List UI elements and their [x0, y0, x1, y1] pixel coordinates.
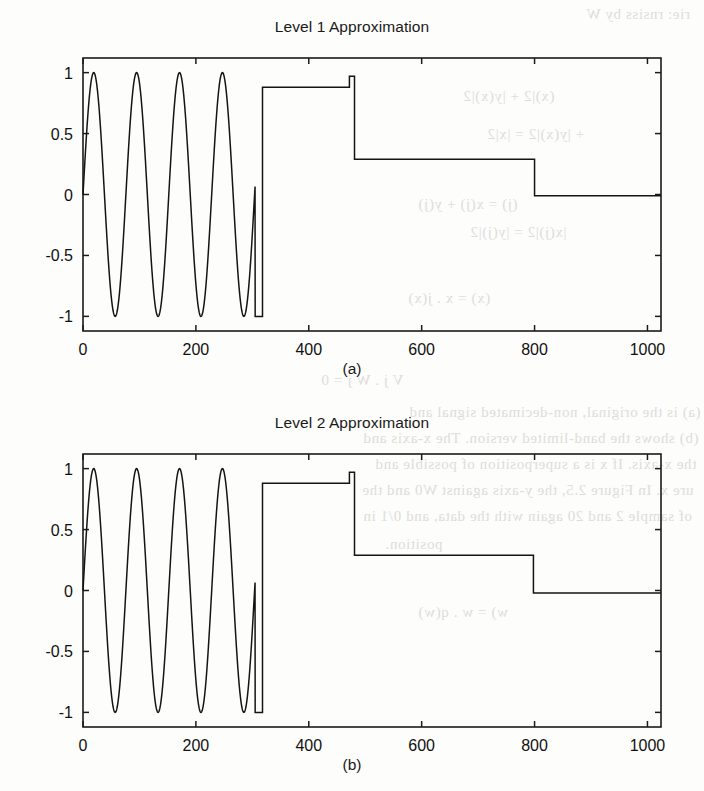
y-tick-label: -1 — [59, 308, 73, 325]
scanned-page: rie: rnsiss by W (x)|2 + |y(x)|2 + |y(x)… — [0, 0, 704, 791]
x-tick-label: 400 — [295, 341, 322, 358]
x-tick-label: 0 — [79, 341, 88, 358]
y-tick-label: -0.5 — [45, 643, 73, 660]
plot-canvas: 02004006008001000-1-0.500.51 — [0, 0, 704, 360]
y-tick-label: 0.5 — [51, 522, 73, 539]
chart-caption: (a) — [0, 360, 704, 378]
x-tick-label: 0 — [79, 737, 88, 754]
chart-level-1-approximation: Level 1 Approximation 02004006008001000-… — [0, 0, 704, 396]
y-tick-label: 1 — [64, 65, 73, 82]
x-tick-label: 1000 — [630, 341, 666, 358]
chart-level-2-approximation: Level 2 Approximation 02004006008001000-… — [0, 396, 704, 791]
x-tick-label: 800 — [521, 341, 548, 358]
x-tick-label: 800 — [521, 737, 548, 754]
data-series-line — [83, 73, 661, 317]
x-tick-label: 400 — [295, 737, 322, 754]
x-tick-label: 600 — [408, 341, 435, 358]
y-tick-label: -0.5 — [45, 247, 73, 264]
y-tick-label: 0 — [64, 583, 73, 600]
data-series-line — [83, 469, 661, 713]
y-tick-label: -1 — [59, 704, 73, 721]
y-tick-label: 0 — [64, 187, 73, 204]
chart-caption: (b) — [0, 756, 704, 774]
plot-canvas: 02004006008001000-1-0.500.51 — [0, 396, 704, 756]
x-tick-label: 1000 — [630, 737, 666, 754]
x-tick-label: 600 — [408, 737, 435, 754]
y-tick-label: 1 — [64, 461, 73, 478]
x-tick-label: 200 — [183, 737, 210, 754]
x-tick-label: 200 — [183, 341, 210, 358]
y-tick-label: 0.5 — [51, 126, 73, 143]
